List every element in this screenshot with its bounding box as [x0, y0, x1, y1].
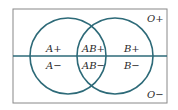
label-a-neg: A−: [45, 60, 62, 71]
venn-diagram: A+ A− AB+ AB− B+ B− O+ O−: [0, 0, 178, 110]
label-ab-pos: AB+: [81, 43, 105, 54]
label-o-neg: O−: [147, 89, 164, 100]
label-ab-neg: AB−: [81, 60, 105, 71]
label-a-pos: A+: [45, 43, 62, 54]
label-b-neg: B−: [123, 60, 140, 71]
label-b-pos: B+: [123, 43, 140, 54]
label-o-pos: O+: [147, 13, 164, 24]
